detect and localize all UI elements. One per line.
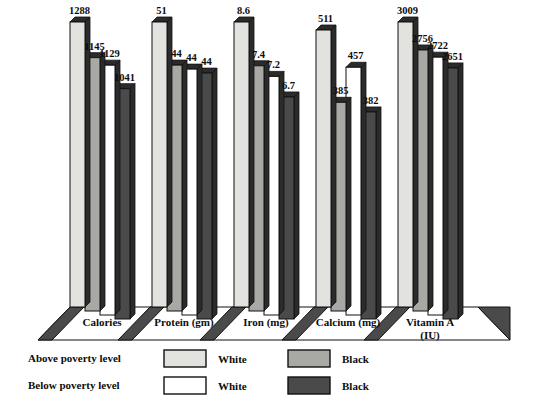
bar-value-label-1-2: 44: [186, 52, 197, 63]
legend-row-0-label: Above poverty level: [28, 352, 121, 364]
bar-side-face: [428, 45, 433, 311]
bar-front-face[interactable]: [316, 30, 331, 307]
bar-side-face: [346, 97, 351, 311]
bar-side-face: [279, 71, 284, 315]
bar-0-0[interactable]: [70, 17, 90, 307]
bar-side-face: [264, 61, 269, 311]
bar-front-face[interactable]: [152, 22, 167, 307]
bar-front-face[interactable]: [234, 22, 249, 307]
bar-2-0[interactable]: [234, 17, 254, 307]
legend-above-white-text: White: [218, 353, 247, 365]
bar-side-face: [130, 84, 135, 319]
bar-side-face: [458, 63, 463, 319]
category-label-2: Iron (mg): [243, 316, 289, 329]
bar-side-face: [197, 64, 202, 315]
bar-side-face: [443, 52, 448, 315]
legend-swatch-below-white[interactable]: [164, 377, 206, 394]
bar-1-0[interactable]: [152, 17, 172, 307]
bar-value-label-4-3: 2651: [442, 51, 463, 62]
bar-value-label-1-0: 51: [156, 5, 167, 16]
bar-value-label-0-1: 1145: [84, 41, 104, 52]
bar-side-face: [376, 107, 381, 319]
category-label-4-line-0: Vitamin A: [406, 316, 454, 328]
category-label-0: Calories: [82, 316, 122, 328]
category-label-4-line-1: (IU): [420, 329, 440, 342]
bar-side-face: [167, 17, 172, 307]
legend-below-black-text: Black: [342, 380, 370, 392]
bar-value-label-2-0: 8.6: [237, 5, 250, 16]
category-label-3: Calcium (mg): [316, 316, 381, 329]
bar-front-face[interactable]: [70, 22, 85, 307]
bar-front-face[interactable]: [398, 22, 413, 307]
bar-value-label-0-0: 1288: [69, 5, 90, 16]
bar-value-label-2-2: 7.2: [267, 59, 280, 70]
bar-side-face: [413, 17, 418, 307]
legend-below-white-text: White: [218, 380, 247, 392]
legend-swatch-above-black[interactable]: [288, 350, 330, 367]
bar-side-face: [249, 17, 254, 307]
bar-value-label-3-2: 457: [348, 50, 364, 61]
legend-row-1-label: Below poverty level: [28, 379, 120, 391]
bar-value-label-2-3: 6.7: [282, 80, 295, 91]
bar-value-label-3-0: 511: [318, 13, 333, 24]
bar-side-face: [331, 25, 336, 307]
bar-side-face: [182, 60, 187, 311]
bar-side-face: [85, 17, 90, 307]
bar-side-face: [212, 68, 217, 319]
bar-side-face: [294, 92, 299, 319]
nutrient-intake-bar-chart: 1041112911451288444444516.77.27.48.63824…: [0, 0, 539, 411]
legend-swatch-above-white[interactable]: [164, 350, 206, 367]
bar-3-0[interactable]: [316, 25, 336, 307]
legend-above-black-text: Black: [342, 353, 370, 365]
bar-value-label-4-0: 3009: [397, 5, 418, 16]
bar-value-label-0-3: 1041: [114, 72, 135, 83]
bar-value-label-3-1: 385: [333, 85, 349, 96]
bar-value-label-4-1: 2756: [412, 33, 433, 44]
bar-4-0[interactable]: [398, 17, 418, 307]
bar-side-face: [100, 53, 105, 311]
bar-value-label-1-3: 44: [201, 56, 212, 67]
category-label-1: Protein (gm): [154, 316, 214, 329]
legend-swatch-below-black[interactable]: [288, 377, 330, 394]
bar-value-label-2-1: 7.4: [252, 49, 266, 60]
bar-value-label-1-1: 44: [171, 48, 182, 59]
bar-side-face: [115, 60, 120, 315]
chart-canvas: 1041112911451288444444516.77.27.48.63824…: [0, 0, 539, 411]
chart-legend: Above poverty level White Black Below po…: [28, 350, 370, 394]
bar-value-label-3-3: 382: [363, 95, 379, 106]
